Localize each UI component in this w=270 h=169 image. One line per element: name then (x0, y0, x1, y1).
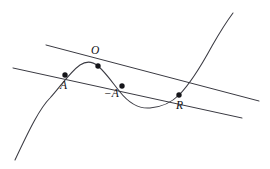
secant-line-upper (46, 45, 259, 101)
point-label-a: A (60, 80, 67, 92)
figure-canvas (0, 0, 270, 169)
point-label-neg-a: −A (104, 88, 119, 100)
elliptic-curve-figure: O A −A R (0, 0, 270, 169)
secant-line-lower (13, 68, 242, 118)
point-marker-r (176, 92, 181, 97)
point-marker-o (95, 63, 100, 68)
point-label-r: R (176, 100, 183, 112)
point-marker-neg-a (119, 83, 124, 88)
point-label-o: O (91, 45, 99, 57)
point-marker-a (62, 72, 67, 77)
